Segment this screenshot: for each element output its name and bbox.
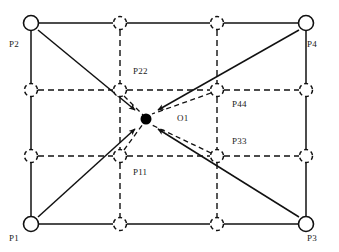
center-point-o1[interactable] <box>141 114 152 125</box>
node-p33-circle[interactable] <box>211 150 224 163</box>
diagram-svg <box>0 0 339 252</box>
node-p22-circle[interactable] <box>114 84 127 97</box>
label-o1: O1 <box>177 114 188 123</box>
arrow-p3-to-center <box>158 129 299 217</box>
node-p2-circle[interactable] <box>24 16 39 31</box>
label-p1: P1 <box>9 234 19 243</box>
node-p1-circle[interactable] <box>24 217 39 232</box>
arrow-p4-to-center <box>158 30 299 110</box>
node-p4-circle[interactable] <box>299 16 314 31</box>
corner-arrows <box>38 30 299 217</box>
outer-rectangle <box>31 23 306 224</box>
node-edge-bottom-left-circle[interactable] <box>114 218 127 231</box>
node-edge-right-lower-circle[interactable] <box>300 150 313 163</box>
label-p3: P3 <box>307 234 317 243</box>
label-p22: P22 <box>133 67 148 76</box>
label-p2: P2 <box>9 40 19 49</box>
connector-p33-to-center <box>152 125 211 153</box>
label-p33: P33 <box>232 137 247 146</box>
connector-p22-to-center <box>124 96 143 115</box>
inner-dashed-connectors <box>124 93 211 153</box>
diagram-canvas: P2 P4 P1 P3 P22 P44 P33 P11 O1 <box>0 0 339 252</box>
inner-dashed-grid <box>38 30 299 217</box>
node-edge-bottom-right-circle[interactable] <box>211 218 224 231</box>
label-p44: P44 <box>232 100 247 109</box>
node-edge-left-lower-circle[interactable] <box>25 150 38 163</box>
node-edge-left-upper-circle[interactable] <box>25 84 38 97</box>
label-p11: P11 <box>133 168 147 177</box>
label-p4: P4 <box>307 40 317 49</box>
node-p3-circle[interactable] <box>299 217 314 232</box>
node-p11-circle[interactable] <box>114 150 127 163</box>
node-p44-circle[interactable] <box>211 84 224 97</box>
node-edge-top-right-circle[interactable] <box>211 17 224 30</box>
node-edge-top-left-circle[interactable] <box>114 17 127 30</box>
node-edge-right-upper-circle[interactable] <box>300 84 313 97</box>
